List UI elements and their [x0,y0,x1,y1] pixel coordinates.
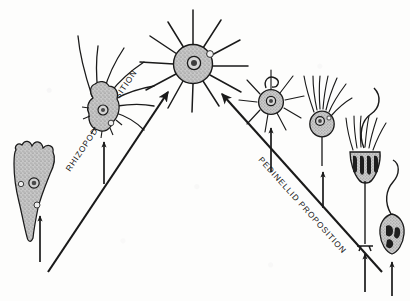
colonial-pedinellid-holdfast [357,246,373,251]
stalked-pedinellid-vacuole [327,116,331,120]
centrohelid-vacuole [207,51,214,58]
small-heliozoan-flagellate [239,70,304,172]
colonial-pedinellid [346,88,386,292]
stalked-pedinellid [304,76,352,208]
filose-amoeba-vacuole [108,120,114,126]
centrohelid-heliozoan [140,10,248,112]
evolution-proposition-diagram: RHIZOPOD PROPOSITION PEDINELLID PROPOSIT… [0,0,410,301]
lobose-amoeba-vacuole-b [34,202,40,208]
free-swimming-flagellate-flagellum [387,160,399,214]
lobose-amoeba [14,141,54,262]
lobose-amoeba-vacuole-a [18,181,23,186]
filose-amoeba [78,36,154,184]
free-swimming-flagellate [380,160,404,296]
stalked-pedinellid-tentacles [304,76,352,116]
small-heliozoan-flagellum [265,77,278,88]
colonial-pedinellid-flagellum [361,88,379,148]
colonial-pedinellid-tentacles [346,116,386,150]
